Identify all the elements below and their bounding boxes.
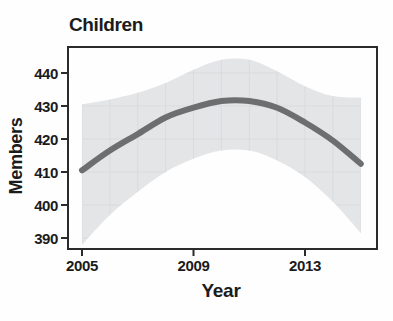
y-axis-label: Members xyxy=(6,118,27,195)
x-tick-label-2013: 2013 xyxy=(289,257,321,274)
chart-title: Children xyxy=(69,14,143,36)
y-tick-label-390: 390 xyxy=(34,230,58,247)
x-tick-label-2009: 2009 xyxy=(178,257,210,274)
y-tick-label-410: 410 xyxy=(34,164,58,181)
y-tick-label-400: 400 xyxy=(34,197,58,214)
x-tick-label-2005: 2005 xyxy=(66,257,98,274)
y-tick-label-430: 430 xyxy=(34,98,58,115)
chart-figure: Children Members Year 390400410420430440… xyxy=(0,0,393,321)
x-axis-label: Year xyxy=(202,280,241,302)
y-tick-label-420: 420 xyxy=(34,131,58,148)
y-tick-label-440: 440 xyxy=(34,65,58,82)
